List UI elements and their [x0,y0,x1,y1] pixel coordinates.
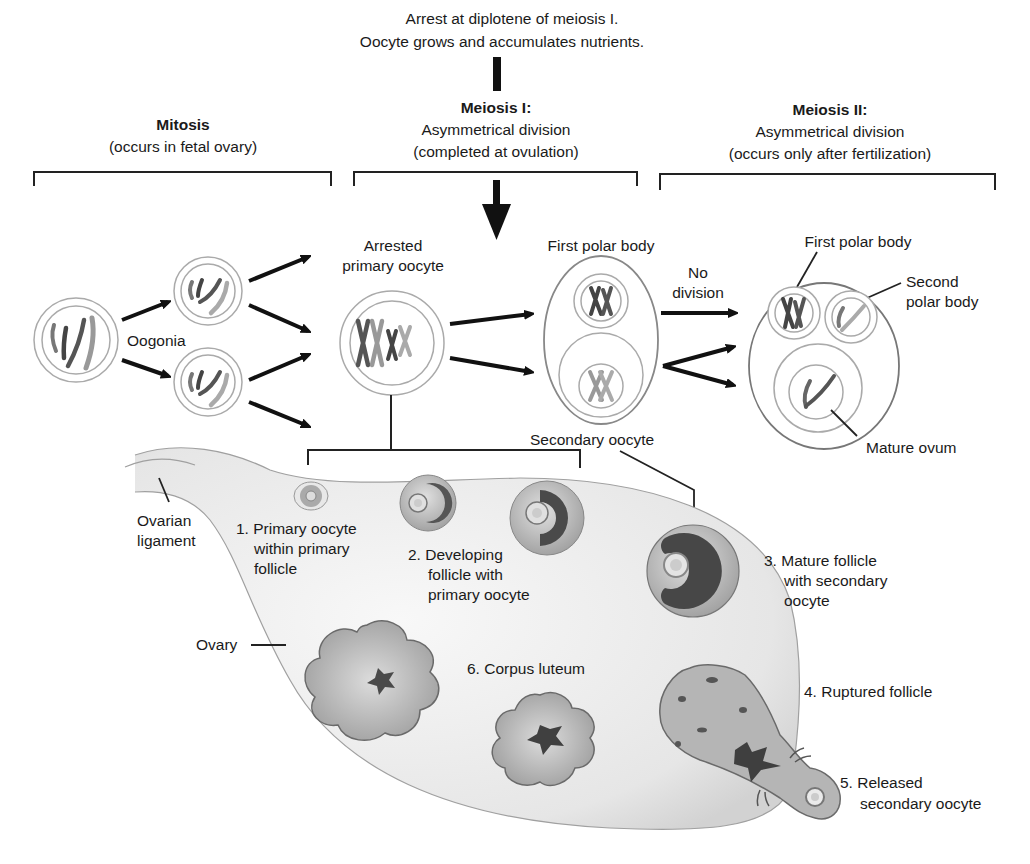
oogonium-daughter-top [174,257,242,325]
no-division-line1: No [688,264,708,281]
developing-follicle-small [400,475,456,531]
mitosis-bracket [34,172,331,186]
arrested-label-line1: Arrested [364,237,423,254]
mature-follicle [647,525,739,617]
mature-ovum-label: Mature ovum [866,439,956,456]
connector-bar [493,57,501,91]
top-note-line1: Arrest at diplotene of meiosis I. [406,10,619,27]
stage1-line1: 1. Primary oocyte [236,520,357,537]
arrow [249,257,308,281]
stage6-label: 6. Corpus luteum [467,660,585,677]
stage1-line3: follicle [254,560,297,577]
arrow [663,366,733,385]
arrow [249,305,308,331]
mitosis-title: Mitosis [156,116,209,133]
meiosis2-title: Meiosis II: [793,101,868,118]
oogonia-label: Oogonia [127,332,186,349]
secondary-oocyte-with-polar-body [544,256,658,424]
ovarian-ligament-line2: ligament [137,532,196,549]
top-note-line2: Oocyte grows and accumulates nutrients. [360,33,644,50]
meiosis1-line2: (completed at ovulation) [413,143,578,160]
oogonium-daughter-bottom [174,348,242,416]
stage2-line3: primary oocyte [428,586,530,603]
ovarian-ligament-line1: Ovarian [137,512,191,529]
down-arrow-shaft [493,180,500,206]
arrow [122,302,168,320]
arrested-label-line2: primary oocyte [342,257,444,274]
arrested-primary-oocyte-cell [340,291,444,395]
pointer-line [867,283,901,298]
follicle-bracket [308,450,580,468]
ovary-label: Ovary [196,636,238,653]
primary-follicle [294,482,328,510]
meiosis2-line2: (occurs only after fertilization) [729,145,931,162]
fertilized-ovum-cell [749,283,899,449]
first-polar-body-label-right: First polar body [805,233,912,250]
second-polar-body-line1: Second [906,273,959,290]
stage5-line2: secondary oocyte [860,795,982,812]
developing-follicle-large [510,481,584,555]
arrow [122,360,168,376]
stage3-line2: with secondary [783,572,888,589]
secondary-oocyte-label: Secondary oocyte [530,431,654,448]
oogonium-cell [34,298,118,382]
arrow [249,355,308,380]
stage4-label: 4. Ruptured follicle [804,683,932,700]
arrow [450,358,531,372]
meiosis1-line1: Asymmetrical division [421,121,570,138]
arrow [249,402,308,426]
arrow [663,347,733,366]
stage2-line1: 2. Developing [408,546,503,563]
second-polar-body-line2: polar body [906,293,979,310]
oogenesis-diagram: Arrest at diplotene of meiosis I. Oocyte… [0,0,1030,864]
mitosis-subtitle: (occurs in fetal ovary) [109,138,257,155]
meiosis1-title: Meiosis I: [461,99,532,116]
meiosis2-line1: Asymmetrical division [755,123,904,140]
stage1-line2: within primary [253,540,350,557]
meiosis2-bracket [660,174,995,190]
arrow [450,314,531,324]
pointer-line [797,252,817,287]
first-polar-body-label-mid: First polar body [548,237,655,254]
stage3-line1: 3. Mature follicle [764,552,877,569]
stage3-line3: oocyte [784,592,830,609]
stage5-line1: 5. Released [840,774,923,791]
no-division-line2: division [672,284,724,301]
stage2-line2: follicle with [428,566,503,583]
down-arrow-head [482,204,511,240]
